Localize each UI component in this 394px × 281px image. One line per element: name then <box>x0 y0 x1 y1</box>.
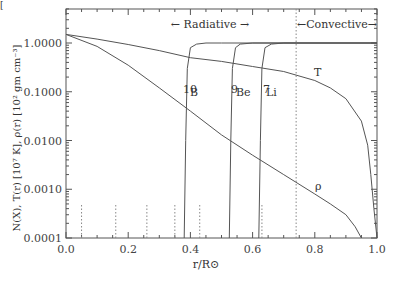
density-label: ρ <box>315 180 321 193</box>
svg-text:r/R⊙: r/R⊙ <box>193 258 219 271</box>
x-tick-label: 0.2 <box>119 243 137 256</box>
data-series <box>66 34 377 238</box>
x-tick-label: 0.8 <box>306 243 324 256</box>
x-tick-label: 1.0 <box>368 243 386 256</box>
boron-label: B <box>190 86 198 99</box>
axis-ticks: 0.00.20.40.60.81.01.00000.10000.01000.00… <box>24 9 386 256</box>
y-axis-label: N(X), T(r) [10⁷ K], ρ(r) [10² gm cm⁻³] <box>11 45 22 232</box>
y-tick-label: 0.0100 <box>24 135 63 148</box>
y-tick-label: 1.0000 <box>24 37 63 50</box>
x-tick-label: 0.6 <box>244 243 262 256</box>
x-axis-label: r/R⊙ <box>193 258 219 271</box>
temperature-label: T <box>314 66 322 79</box>
y-tick-label: 0.0001 <box>24 232 63 245</box>
lithium-label: Li <box>266 86 277 99</box>
series-rho <box>66 34 361 238</box>
radiative-label: ← Radiative → <box>171 18 249 31</box>
series-t <box>66 34 377 238</box>
series-10b <box>184 43 377 238</box>
beryllium-label: Be <box>236 86 251 99</box>
corner-mark: [ <box>0 0 4 10</box>
y-tick-label: 0.1000 <box>24 86 63 99</box>
convective-label: ←Convective→ <box>297 18 377 31</box>
y-tick-label: 0.0010 <box>24 183 63 196</box>
series-9be <box>229 43 377 238</box>
x-tick-label: 0.4 <box>182 243 200 256</box>
plot-area: [ 0.00.20.40.60.81.01.00000.10000.01000.… <box>0 0 394 281</box>
